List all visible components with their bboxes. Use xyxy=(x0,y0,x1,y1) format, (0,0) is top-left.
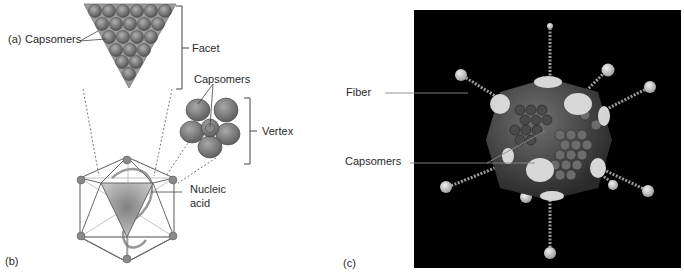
facet-triangle xyxy=(84,4,176,88)
fiber-label: Fiber xyxy=(346,86,371,99)
capsomers-label-c: Capsomers xyxy=(345,155,401,168)
capsomers-label-vertex: Capsomers xyxy=(194,73,250,86)
vertex-bracket xyxy=(244,98,250,164)
panel-b-letter: (b) xyxy=(5,255,18,268)
facet-label: Facet xyxy=(192,42,220,55)
nucleic-acid-label-line2: acid xyxy=(190,197,210,210)
diagram-canvas xyxy=(0,0,684,276)
vertex-capsomer-cluster xyxy=(180,98,240,158)
nucleic-acid-label-line1: Nucleic xyxy=(190,183,226,196)
vertex-label: Vertex xyxy=(262,125,293,138)
capsomers-label-a: Capsomers xyxy=(25,33,81,46)
panel-c-letter: (c) xyxy=(343,257,356,270)
panel-a-letter: (a) xyxy=(8,33,21,46)
icosahedron xyxy=(77,156,177,263)
facet-bracket xyxy=(176,6,182,89)
